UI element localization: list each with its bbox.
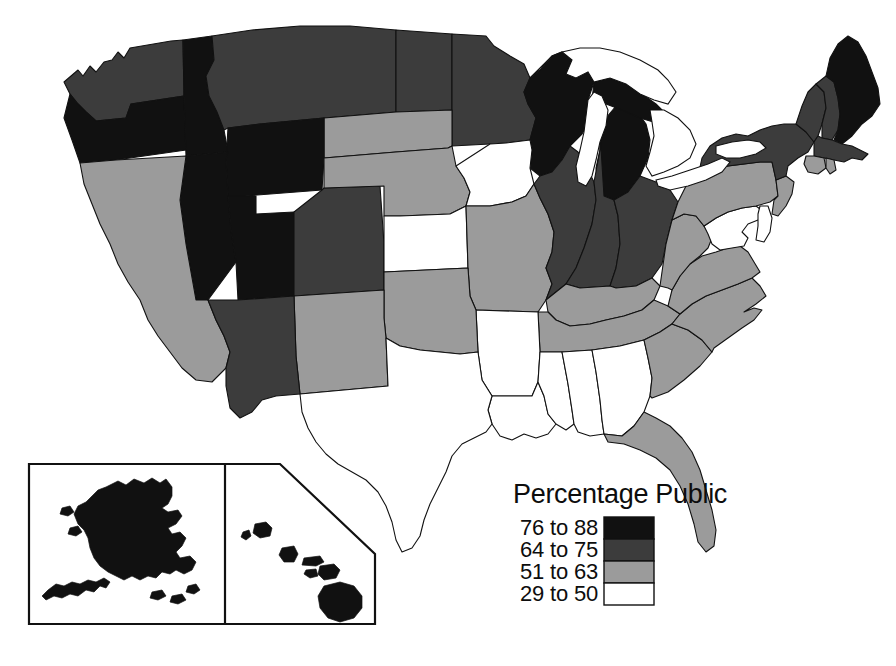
state-arkansas[interactable] — [476, 310, 540, 396]
us-map-svg: Percentage Public 76 to 88 64 to 75 51 t… — [0, 0, 896, 666]
state-wyoming[interactable] — [226, 118, 324, 196]
state-colorado[interactable] — [294, 186, 384, 296]
state-oklahoma[interactable] — [384, 268, 478, 354]
legend-entry-label: 29 to 50 — [520, 581, 598, 606]
legend-entry[interactable]: 29 to 50 — [520, 581, 654, 606]
legend-entry-swatch — [604, 561, 654, 583]
choropleth-map-figure: Percentage Public 76 to 88 64 to 75 51 t… — [0, 0, 896, 666]
legend-entry-swatch — [604, 517, 654, 539]
state-north-dakota[interactable] — [396, 30, 452, 112]
legend-entry-swatch — [604, 539, 654, 561]
state-kansas[interactable] — [384, 206, 468, 272]
legend-entry-swatch — [604, 583, 654, 605]
state-new-mexico[interactable] — [294, 290, 388, 394]
legend-title: Percentage Public — [513, 479, 727, 509]
